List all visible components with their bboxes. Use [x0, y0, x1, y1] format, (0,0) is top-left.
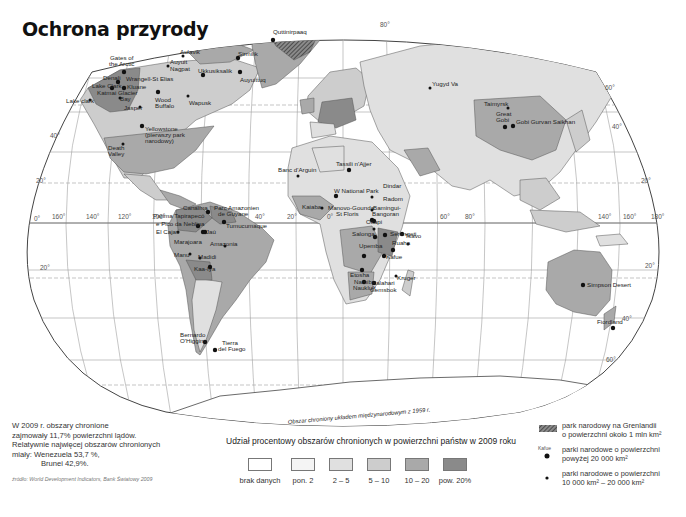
svg-text:40°: 40°: [622, 315, 632, 322]
legend-item-brak-danych: brak danych: [236, 458, 284, 471]
svg-text:Gobi: Gobi: [496, 116, 509, 123]
svg-text:Madidi: Madidi: [198, 253, 216, 260]
svg-text:Simpson Desert: Simpson Desert: [587, 281, 631, 288]
svg-text:Quttinirpaaq: Quttinirpaaq: [273, 28, 307, 35]
svg-text:40°: 40°: [612, 123, 622, 130]
svg-text:Lake clark: Lake clark: [66, 97, 95, 104]
svg-text:Auyuittuq: Auyuittuq: [240, 76, 266, 83]
svg-text:Auyuit: Auyuit: [170, 58, 187, 65]
svg-text:O'Higgins: O'Higgins: [180, 337, 207, 344]
svg-text:Okapi: Okapi: [366, 218, 382, 225]
svg-text:Nagpat: Nagpat: [170, 65, 190, 72]
svg-text:Gemsbok: Gemsbok: [370, 286, 397, 293]
svg-text:Ukkusiksalik: Ukkusiksalik: [198, 67, 233, 74]
svg-text:160°: 160°: [52, 213, 66, 220]
legend-item-pon-2: pon. 2: [284, 458, 322, 471]
svg-text:Kaiaba: Kaiaba: [302, 203, 322, 210]
svg-text:Denali: Denali: [103, 74, 121, 81]
svg-text:60°: 60°: [606, 356, 616, 363]
svg-text:Dindar: Dindar: [383, 182, 401, 189]
svg-text:0°: 0°: [34, 215, 41, 222]
source-note: źródło: World Development Indicators, Ba…: [12, 476, 152, 482]
svg-text:20°: 20°: [40, 264, 50, 271]
svg-text:Yugyd Va: Yugyd Va: [432, 80, 459, 87]
svg-text:Buffalo: Buffalo: [155, 102, 175, 109]
svg-text:El Cajas: El Cajas: [156, 228, 179, 235]
svg-text:Kafue: Kafue: [386, 253, 403, 260]
svg-text:100°: 100°: [152, 213, 166, 220]
svg-text:180°: 180°: [651, 213, 665, 220]
large-dot-icon: [538, 452, 560, 460]
svg-text:del Fuego: del Fuego: [218, 345, 246, 352]
legend-item-2-5: 2 – 5: [322, 458, 360, 471]
svg-text:80°: 80°: [380, 21, 390, 28]
hatch-icon: [538, 424, 560, 434]
legend-item-5-10: 5 – 10: [360, 458, 398, 471]
small-dot-icon: [538, 474, 560, 482]
svg-text:20°: 20°: [287, 213, 297, 220]
svg-text:the Arctic: the Arctic: [109, 60, 134, 67]
svg-text:80°: 80°: [465, 213, 475, 220]
svg-text:Marajoara: Marajoara: [174, 238, 202, 245]
svg-text:Valley: Valley: [108, 150, 125, 157]
svg-text:Wapusk: Wapusk: [189, 99, 212, 106]
svg-text:Bay: Bay: [120, 95, 132, 102]
svg-text:Tumucumaque: Tumucumaque: [226, 222, 268, 229]
svg-text:120°: 120°: [118, 213, 132, 220]
svg-text:W National Park: W National Park: [334, 187, 380, 194]
svg-text:0°: 0°: [327, 213, 334, 220]
svg-text:Kalahari: Kalahari: [372, 279, 395, 286]
legend-title: Udział procentowy obszarów chronionych w…: [226, 436, 516, 446]
svg-text:20°: 20°: [36, 177, 46, 184]
svg-text:St Floris: St Floris: [336, 210, 359, 217]
svg-text:40°: 40°: [50, 132, 60, 139]
svg-text:Upemba: Upemba: [359, 242, 383, 249]
legend-classes: brak danych pon. 2 2 – 5 5 – 10 10 – 20 …: [236, 458, 474, 471]
svg-text:Manu: Manu: [174, 251, 190, 258]
svg-text:Lake Clark: Lake Clark: [92, 82, 122, 89]
svg-text:Sirmilik: Sirmilik: [238, 50, 259, 57]
svg-text:Tsavo: Tsavo: [405, 232, 422, 239]
svg-text:Canaima: Canaima: [183, 204, 208, 211]
svg-text:Radom: Radom: [383, 195, 403, 202]
svg-text:Taimyrsk: Taimyrsk: [484, 100, 509, 107]
svg-text:Salonga: Salonga: [352, 230, 375, 237]
svg-text:Bangoran: Bangoran: [372, 210, 399, 217]
svg-text:160°: 160°: [623, 213, 637, 220]
svg-text:140°: 140°: [598, 213, 612, 220]
svg-text:narodowy): narodowy): [145, 137, 174, 144]
svg-text:40°: 40°: [255, 213, 265, 220]
svg-text:60°: 60°: [605, 84, 615, 91]
svg-text:20°: 20°: [645, 262, 655, 269]
legend-item-pow-20: pow. 20%: [436, 458, 474, 471]
summary-note: W 2009 r. obszary chronione zajmowały 11…: [12, 421, 160, 469]
legend-item-10-20: 10 – 20: [398, 458, 436, 471]
svg-text:Fiordland: Fiordland: [597, 318, 623, 325]
svg-text:60°: 60°: [440, 213, 450, 220]
svg-text:Ruaha: Ruaha: [392, 239, 411, 246]
svg-text:20°: 20°: [641, 177, 651, 184]
svg-text:Banc d'Arguin: Banc d'Arguin: [278, 166, 317, 173]
svg-text:de Guyane: de Guyane: [218, 210, 249, 217]
svg-text:e Pico da Neblina: e Pico da Neblina: [156, 220, 205, 227]
svg-text:Jaú: Jaú: [206, 228, 217, 235]
svg-text:Gobi Gurvan Saikhan: Gobi Gurvan Saikhan: [516, 118, 576, 125]
svg-text:Jasper: Jasper: [124, 104, 143, 111]
svg-text:140°: 140°: [86, 213, 100, 220]
svg-text:Amazonia: Amazonia: [210, 240, 238, 247]
svg-text:Wrangell-St Elias: Wrangell-St Elias: [126, 75, 173, 82]
svg-text:Katmai Glacier: Katmai Glacier: [97, 89, 138, 96]
svg-text:Aulavik: Aulavik: [180, 48, 201, 55]
svg-text:Tassili n'Ajjer: Tassili n'Ajjer: [336, 160, 372, 167]
svg-text:Kaa-Iya: Kaa-Iya: [194, 265, 216, 272]
svg-text:Kruger: Kruger: [397, 274, 416, 281]
svg-text:Etosha: Etosha: [350, 271, 370, 278]
